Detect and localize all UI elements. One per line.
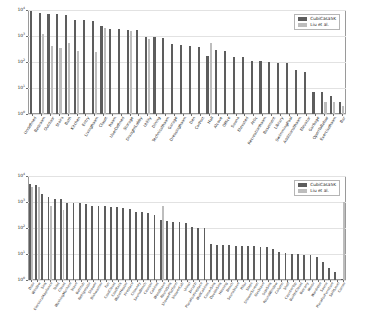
bar-cubicasa5k bbox=[242, 57, 244, 114]
bar-cubicasa5k bbox=[74, 20, 76, 114]
bar-liu bbox=[77, 51, 79, 114]
bar-cubicasa5k bbox=[104, 206, 106, 280]
bar-cubicasa5k bbox=[210, 244, 212, 280]
bar-group bbox=[214, 10, 223, 114]
bar-cubicasa5k bbox=[312, 92, 314, 114]
bar-liu bbox=[68, 43, 70, 114]
bar-cubicasa5k bbox=[30, 11, 32, 114]
bar-cubicasa5k bbox=[145, 37, 147, 114]
y-tick-label: 100 bbox=[17, 112, 25, 117]
bar-group bbox=[196, 10, 205, 114]
bar-group bbox=[178, 10, 187, 114]
bar-cubicasa5k bbox=[339, 102, 341, 114]
bar-cubicasa5k bbox=[197, 228, 199, 280]
bar-cubicasa5k bbox=[247, 246, 249, 280]
bar-cubicasa5k bbox=[253, 246, 255, 280]
bar-group bbox=[205, 10, 214, 114]
bar-liu bbox=[95, 52, 97, 114]
bar-cubicasa5k bbox=[189, 46, 191, 114]
bar-cubicasa5k bbox=[29, 184, 31, 280]
bar-cubicasa5k bbox=[285, 253, 287, 280]
bar-cubicasa5k bbox=[222, 245, 224, 280]
bar-liu bbox=[148, 39, 150, 114]
room-class-distribution-chart: 100101102103104 CubiCasa5K Liu et al. Un… bbox=[0, 0, 365, 166]
bar-group bbox=[222, 10, 231, 114]
bar-cubicasa5k bbox=[215, 50, 217, 114]
bar-cubicasa5k bbox=[154, 215, 156, 280]
plot-area-top: 100101102103104 CubiCasa5K Liu et al. bbox=[28, 10, 346, 114]
bar-cubicasa5k bbox=[100, 26, 102, 114]
legend-label-liu: Liu et al. bbox=[310, 23, 329, 27]
bar-cubicasa5k bbox=[259, 61, 261, 114]
bar-cubicasa5k bbox=[48, 197, 50, 280]
bar-cubicasa5k bbox=[118, 29, 120, 114]
bar-liu bbox=[333, 102, 335, 114]
bar-group bbox=[340, 176, 346, 280]
bar-cubicasa5k bbox=[328, 268, 330, 280]
bar-cubicasa5k bbox=[204, 228, 206, 280]
bar-cubicasa5k bbox=[291, 254, 293, 280]
bar-liu bbox=[42, 34, 44, 114]
bar-cubicasa5k bbox=[54, 199, 56, 280]
bar-liu bbox=[324, 102, 326, 114]
bar-liu bbox=[31, 187, 33, 280]
bar-group bbox=[116, 10, 125, 114]
bar-cubicasa5k bbox=[41, 194, 43, 280]
bar-cubicasa5k bbox=[179, 222, 181, 280]
bar-cubicasa5k bbox=[334, 272, 336, 280]
bar-cubicasa5k bbox=[73, 203, 75, 280]
icon-class-distribution-chart: 100101102103104 CubiCasa5K Liu et al. Do… bbox=[0, 166, 365, 332]
bar-group bbox=[169, 10, 178, 114]
bar-liu bbox=[162, 206, 164, 280]
bar-cubicasa5k bbox=[278, 252, 280, 280]
bar-group bbox=[28, 10, 37, 114]
bar-cubicasa5k bbox=[235, 246, 237, 280]
legend-label-liu: Liu et al. bbox=[310, 189, 329, 193]
y-tick-label: 101 bbox=[17, 252, 25, 257]
bar-cubicasa5k bbox=[92, 21, 94, 114]
bar-group bbox=[99, 10, 108, 114]
plot-area-bottom: 100101102103104 CubiCasa5K Liu et al. bbox=[28, 176, 346, 280]
bar-cubicasa5k bbox=[91, 206, 93, 280]
legend-item-liu: Liu et al. bbox=[298, 189, 336, 193]
legend-bottom: CubiCasa5K Liu et al. bbox=[294, 180, 340, 196]
bar-group bbox=[249, 10, 258, 114]
x-tick-label: Bar bbox=[340, 116, 347, 124]
bar-cubicasa5k bbox=[304, 72, 306, 114]
bar-group bbox=[267, 10, 276, 114]
bar-cubicasa5k bbox=[297, 254, 299, 280]
bar-cubicasa5k bbox=[116, 207, 118, 280]
legend-swatch-liu bbox=[298, 189, 307, 193]
bar-cubicasa5k bbox=[83, 20, 85, 114]
y-tick-label: 104 bbox=[17, 8, 25, 13]
legend-swatch-liu bbox=[298, 23, 307, 27]
bar-cubicasa5k bbox=[109, 29, 111, 114]
bar-cubicasa5k bbox=[47, 14, 49, 114]
x-tick-label: Closet bbox=[98, 116, 108, 128]
bar-group bbox=[37, 10, 46, 114]
bar-cubicasa5k bbox=[224, 51, 226, 114]
bar-cubicasa5k bbox=[310, 255, 312, 280]
bar-group bbox=[72, 10, 81, 114]
bar-cubicasa5k bbox=[147, 213, 149, 280]
bar-liu bbox=[104, 28, 106, 114]
bar-cubicasa5k bbox=[136, 30, 138, 114]
bar-group bbox=[161, 10, 170, 114]
bar-cubicasa5k bbox=[129, 209, 131, 280]
bar-liu bbox=[38, 187, 40, 280]
bar-cubicasa5k bbox=[35, 185, 37, 280]
bar-cubicasa5k bbox=[268, 62, 270, 114]
bar-cubicasa5k bbox=[160, 220, 162, 280]
bar-group bbox=[284, 10, 293, 114]
bar-liu bbox=[59, 48, 61, 114]
legend-label-cubicasa5k: CubiCasa5K bbox=[310, 17, 336, 21]
y-tick-label: 104 bbox=[17, 174, 25, 179]
bar-group bbox=[187, 10, 196, 114]
bar-group bbox=[231, 10, 240, 114]
y-tick-label: 101 bbox=[17, 86, 25, 91]
bar-liu bbox=[51, 46, 53, 114]
bar-liu bbox=[342, 106, 344, 114]
bar-cubicasa5k bbox=[98, 206, 100, 280]
x-tick-labels-top: UndefinedBedroomOutdoorStairsBathKitchen… bbox=[28, 116, 346, 164]
bar-cubicasa5k bbox=[277, 63, 279, 114]
